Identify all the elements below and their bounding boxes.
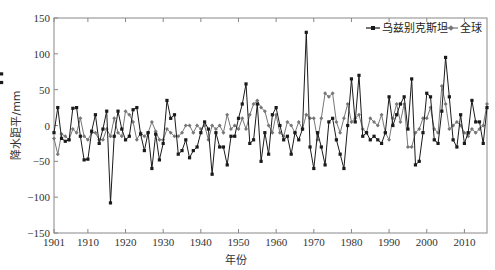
legend-item-global: 全球: [444, 21, 482, 35]
data-point-marker: [278, 124, 281, 127]
data-point-marker: [297, 120, 301, 124]
series-0: [0, 31, 489, 205]
data-point-marker: [150, 120, 154, 124]
data-point-marker: [342, 116, 346, 120]
data-point-marker: [93, 131, 97, 135]
data-point-marker: [418, 160, 421, 163]
data-point-marker: [365, 131, 368, 134]
data-point-marker: [105, 127, 109, 131]
data-point-marker: [131, 108, 134, 111]
data-point-marker: [195, 145, 198, 148]
data-point-marker: [256, 102, 259, 105]
data-point-marker: [467, 131, 470, 134]
precipitation-anomaly-chart: −150−100−50050100150 1901191019201930194…: [0, 0, 495, 270]
data-point-marker: [403, 95, 406, 98]
data-point-marker: [188, 156, 191, 159]
data-point-marker: [244, 82, 247, 85]
data-point-marker: [436, 142, 439, 145]
data-point-marker: [218, 145, 221, 148]
data-point-marker: [108, 134, 112, 138]
y-tick-label: −100: [27, 191, 50, 203]
data-point-marker: [406, 145, 410, 149]
data-point-marker: [327, 120, 330, 123]
data-point-marker: [71, 107, 74, 110]
data-point-marker: [157, 138, 161, 142]
data-point-marker: [395, 102, 399, 106]
data-point-marker: [252, 138, 255, 141]
legend-label-global: 全球: [460, 21, 482, 35]
data-point-marker: [188, 124, 192, 128]
data-point-marker: [369, 138, 372, 141]
data-point-marker: [395, 113, 398, 116]
data-point-marker: [455, 145, 458, 148]
data-point-marker: [448, 95, 451, 98]
data-point-marker: [203, 120, 206, 123]
data-point-marker: [192, 149, 195, 152]
data-point-marker: [135, 106, 138, 109]
data-point-marker: [376, 138, 379, 141]
data-point-marker: [459, 113, 462, 116]
data-point-marker: [485, 102, 489, 106]
data-point-marker: [267, 153, 270, 156]
data-point-marker: [290, 153, 293, 156]
data-point-marker: [244, 127, 248, 131]
data-point-marker: [248, 142, 251, 145]
data-point-marker: [180, 149, 183, 152]
data-point-marker: [444, 56, 447, 59]
data-point-marker: [380, 142, 383, 145]
y-tick-label: 150: [34, 12, 51, 24]
x-tick-label: 1950: [227, 236, 250, 248]
x-tick-label: 1970: [303, 236, 326, 248]
y-tick-label: 50: [39, 84, 51, 96]
data-point-marker: [165, 99, 168, 102]
data-point-marker: [241, 102, 244, 105]
data-point-marker: [184, 124, 188, 128]
data-point-marker: [128, 135, 131, 138]
legend-item-uzbekistan: 乌兹别克斯坦: [366, 21, 448, 35]
data-point-marker: [429, 95, 432, 98]
legend-label-uzbekistan: 乌兹别克斯坦: [382, 21, 448, 35]
data-point-marker: [410, 77, 413, 80]
data-point-marker: [75, 106, 78, 109]
data-point-marker: [319, 116, 323, 120]
data-point-marker: [52, 131, 55, 134]
data-point-marker: [52, 136, 56, 140]
data-point-marker: [399, 102, 402, 105]
data-point-marker: [158, 158, 161, 161]
data-point-marker: [177, 153, 180, 156]
data-point-marker: [334, 120, 338, 124]
data-point-marker: [113, 135, 116, 138]
data-point-marker: [293, 131, 296, 134]
data-point-marker: [211, 173, 214, 176]
data-point-marker: [214, 131, 217, 134]
data-point-marker: [425, 92, 428, 95]
data-point-marker: [338, 131, 342, 135]
x-tick-label: 1930: [152, 236, 175, 248]
data-point-marker: [147, 131, 150, 134]
data-point-marker: [56, 152, 60, 156]
x-tick-label: 1940: [190, 236, 213, 248]
data-point-marker: [335, 138, 338, 141]
data-point-marker: [391, 124, 394, 127]
y-tick-label: 100: [34, 48, 51, 60]
y-tick-label: 0: [45, 120, 51, 132]
data-point-marker: [221, 131, 225, 135]
data-point-marker: [67, 138, 70, 141]
data-point-marker: [259, 160, 262, 163]
data-point-marker: [90, 130, 93, 133]
x-tick-label: 1960: [265, 236, 288, 248]
data-point-marker: [308, 145, 311, 148]
data-point-marker: [98, 142, 101, 145]
data-point-marker: [222, 145, 225, 148]
data-point-marker: [331, 117, 334, 120]
data-point-marker: [357, 74, 360, 77]
data-point-marker: [184, 138, 187, 141]
data-point-marker: [240, 116, 244, 120]
data-point-marker: [425, 116, 429, 120]
data-point-marker: [79, 135, 82, 138]
x-tick-label: 1990: [378, 236, 401, 248]
x-axis-title: 年份: [225, 253, 247, 267]
data-point-marker: [169, 117, 172, 120]
data-point-marker: [361, 135, 364, 138]
data-point-marker: [297, 138, 300, 141]
